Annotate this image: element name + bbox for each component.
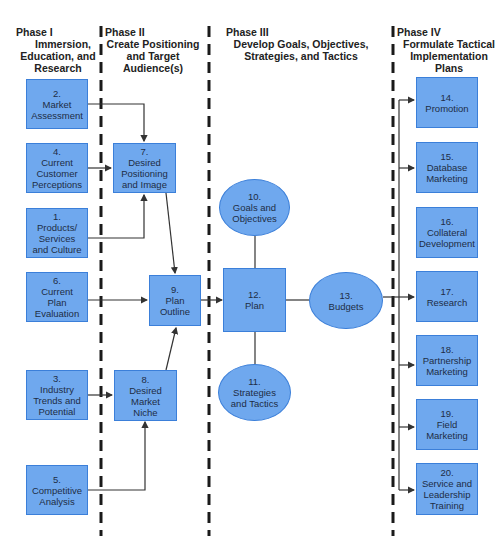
node-16-collateral-development: 16. Collateral Development <box>416 207 478 258</box>
arrow-2-to-7 <box>88 104 144 141</box>
node-text: Market <box>131 396 160 407</box>
node-number: 9. <box>171 284 179 295</box>
node-number: 11. <box>248 376 261 387</box>
node-text: Desired <box>129 385 162 396</box>
node-text: Outline <box>160 306 190 317</box>
node-number: 2. <box>53 88 61 99</box>
node-text: Potential <box>39 406 76 417</box>
node-12-plan: 12. Plan <box>223 268 286 332</box>
phase-2-header: Phase II Create Positioning and Target A… <box>105 26 201 74</box>
node-10-goals-objectives: 10. Goals and Objectives <box>219 179 290 236</box>
node-text: Marketing <box>426 366 468 377</box>
node-text: Trends and <box>33 395 81 406</box>
node-text: Perceptions <box>32 179 82 190</box>
arrow-7-to-9 <box>166 193 175 273</box>
phase-1-subtitle-line: Research <box>16 62 100 74</box>
node-6-current-plan-evaluation: 6. Current Plan Evaluation <box>26 272 88 322</box>
phase-4-subtitle-line: Plans <box>397 62 501 74</box>
node-number: 14. <box>440 92 453 103</box>
node-5-competitive-analysis: 5. Competitive Analysis <box>26 465 88 515</box>
node-text: Database <box>427 162 468 173</box>
node-8-desired-market-niche: 8. Desired Market Niche <box>114 370 177 421</box>
node-number: 3. <box>53 373 61 384</box>
node-17-research: 17. Research <box>416 271 478 322</box>
node-text: Marketing <box>426 430 468 441</box>
node-text: Plan <box>165 295 184 306</box>
node-text: and Image <box>122 179 167 190</box>
node-15-database-marketing: 15. Database Marketing <box>416 142 478 193</box>
node-14-promotion: 14. Promotion <box>416 77 478 128</box>
phase-2-subtitle-line: and Target <box>105 50 201 62</box>
phase-4-subtitle-line: Implementation <box>397 50 501 62</box>
node-number: 17. <box>440 286 453 297</box>
node-13-budgets: 13. Budgets <box>309 272 383 329</box>
phase-4-label: Phase IV <box>397 26 501 38</box>
node-text: Research <box>427 297 468 308</box>
arrow-1-to-7 <box>88 195 144 238</box>
phase-3-subtitle-line: Develop Goals, Objectives, <box>226 38 376 50</box>
node-text: Training <box>430 500 464 511</box>
node-number: 18. <box>440 344 453 355</box>
phase-2-label: Phase II <box>105 26 201 38</box>
phase-2-subtitle-line: Audience(s) <box>105 62 201 74</box>
phase-4-subtitle-line: Formulate Tactical <box>397 38 501 50</box>
node-text: Market <box>42 99 71 110</box>
node-text: and Culture <box>32 244 81 255</box>
phase-3-header: Phase III Develop Goals, Objectives, Str… <box>226 26 376 62</box>
node-text: Budgets <box>329 301 364 312</box>
node-text: Marketing <box>426 173 468 184</box>
node-2-market-assessment: 2. Market Assessment <box>26 79 88 129</box>
node-number: 19. <box>440 408 453 419</box>
node-text: Goals and <box>233 202 276 213</box>
node-text: Objectives <box>232 213 276 224</box>
arrow-5-to-8 <box>88 422 145 490</box>
node-text: Competitive <box>32 485 82 496</box>
phase-3-subtitle-line: Strategies, and Tactics <box>226 50 376 62</box>
node-text: Promotion <box>425 103 468 114</box>
node-number: 8. <box>142 374 150 385</box>
phase-1-label: Phase I <box>16 26 100 38</box>
node-text: Desired <box>128 157 161 168</box>
node-number: 6. <box>53 275 61 286</box>
node-text: Service and <box>422 478 472 489</box>
node-number: 13. <box>339 290 352 301</box>
node-number: 10. <box>248 191 261 202</box>
node-text: Analysis <box>39 496 74 507</box>
node-20-service-leadership-training: 20. Service and Leadership Training <box>416 463 478 515</box>
node-number: 15. <box>440 151 453 162</box>
node-text: Services <box>39 233 75 244</box>
node-number: 7. <box>141 146 149 157</box>
node-18-partnership-marketing: 18. Partnership Marketing <box>416 335 478 386</box>
node-text: Strategies <box>233 387 276 398</box>
phase-3-label: Phase III <box>226 26 376 38</box>
node-number: 12. <box>248 289 261 300</box>
node-text: Assessment <box>31 110 83 121</box>
node-text: Partnership <box>423 355 472 366</box>
node-text: and Tactics <box>231 398 278 409</box>
node-text: Current <box>41 286 73 297</box>
node-7-desired-positioning: 7. Desired Positioning and Image <box>113 143 176 193</box>
node-4-current-customer-perceptions: 4. Current Customer Perceptions <box>26 143 88 193</box>
node-number: 20. <box>440 467 453 478</box>
node-text: Niche <box>133 407 157 418</box>
phase-1-subtitle-line: Education, and <box>16 50 100 62</box>
node-text: Plan <box>47 297 66 308</box>
phase-1-subtitle-line: Immersion, <box>16 38 100 50</box>
node-number: 1. <box>53 211 61 222</box>
phase-4-header: Phase IV Formulate Tactical Implementati… <box>397 26 501 74</box>
node-11-strategies-tactics: 11. Strategies and Tactics <box>218 364 291 421</box>
node-text: Collateral <box>427 227 467 238</box>
node-1-products-services-culture: 1. Products/ Services and Culture <box>26 208 88 258</box>
node-text: Products/ <box>37 222 77 233</box>
node-9-plan-outline: 9. Plan Outline <box>149 275 201 326</box>
node-text: Plan <box>245 300 264 311</box>
node-text: Current <box>41 157 73 168</box>
node-number: 16. <box>440 216 453 227</box>
node-text: Evaluation <box>35 308 79 319</box>
node-text: Development <box>419 238 475 249</box>
node-number: 5. <box>53 474 61 485</box>
node-text: Positioning <box>121 168 167 179</box>
node-3-industry-trends: 3. Industry Trends and Potential <box>26 370 88 420</box>
arrow-8-to-9 <box>166 328 176 370</box>
node-19-field-marketing: 19. Field Marketing <box>416 399 478 450</box>
